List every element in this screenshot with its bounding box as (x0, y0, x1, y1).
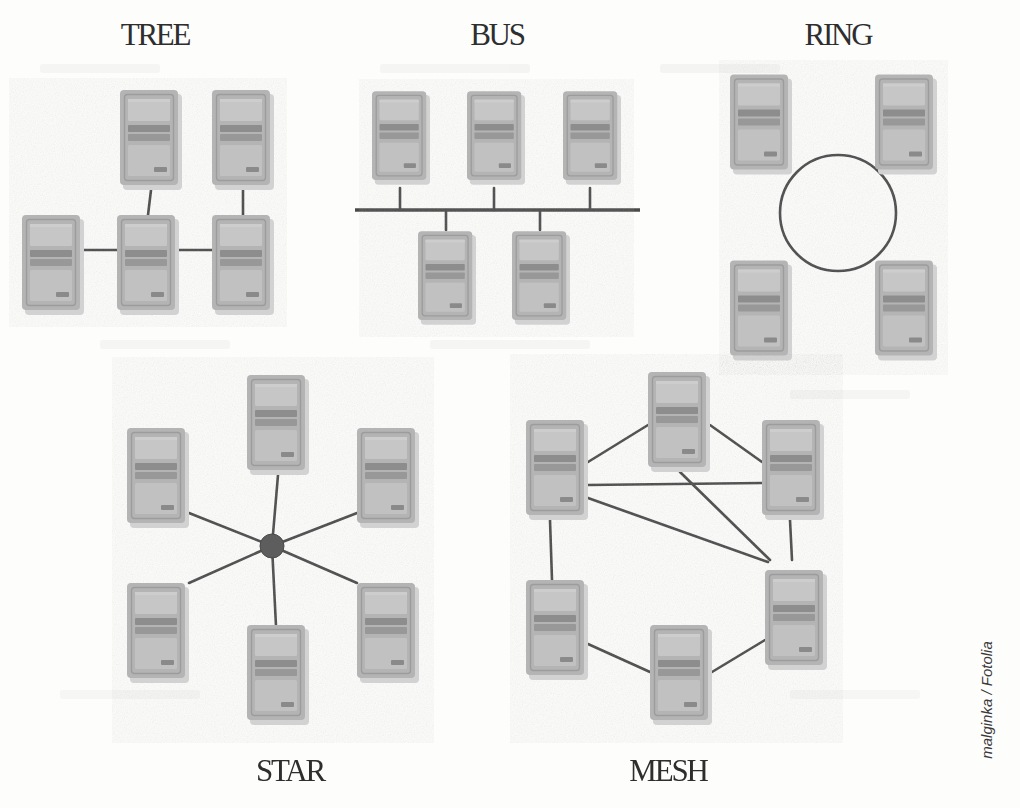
pc-node-m3[interactable] (762, 420, 824, 520)
pc-node-s6[interactable] (247, 625, 309, 725)
watermark-label: malginka / Fotolia (978, 641, 995, 759)
pc-node-r1[interactable] (730, 75, 792, 175)
pc-node-s2[interactable] (127, 428, 189, 528)
pc-node-b5[interactable] (512, 231, 570, 325)
pc-node-b3[interactable] (563, 91, 621, 185)
topology-diagram-canvas: TREE BUS (0, 0, 1020, 808)
star-title: STAR (256, 753, 326, 788)
pc-node-t1[interactable] (120, 90, 182, 190)
star-central-hub[interactable] (260, 534, 284, 558)
tree-title: TREE (121, 17, 191, 52)
pc-node-s3[interactable] (357, 428, 419, 528)
pc-node-b4[interactable] (418, 231, 476, 325)
pc-node-t3[interactable] (22, 215, 84, 315)
pc-node-m4[interactable] (526, 580, 588, 680)
pc-node-t2[interactable] (212, 90, 274, 190)
pc-node-m6[interactable] (765, 570, 827, 670)
pc-node-m1[interactable] (648, 372, 710, 472)
watermark: malginka / Fotolia (978, 641, 995, 759)
pc-node-b1[interactable] (372, 91, 430, 185)
pc-node-s5[interactable] (357, 583, 419, 683)
pc-node-r3[interactable] (730, 261, 792, 361)
ring-title: RING (805, 17, 874, 52)
pc-node-t4[interactable] (117, 215, 179, 315)
bus-title: BUS (470, 17, 525, 52)
pc-node-s4[interactable] (127, 583, 189, 683)
pc-node-s1[interactable] (247, 375, 309, 475)
pc-node-t5[interactable] (212, 215, 274, 315)
pc-node-r4[interactable] (875, 261, 937, 361)
pc-node-r2[interactable] (875, 75, 937, 175)
topology-scene: TREE BUS (0, 0, 1020, 808)
pc-node-m5[interactable] (650, 625, 712, 725)
mesh-title: MESH (629, 753, 708, 788)
pc-node-m2[interactable] (526, 420, 588, 520)
pc-node-b2[interactable] (467, 91, 525, 185)
